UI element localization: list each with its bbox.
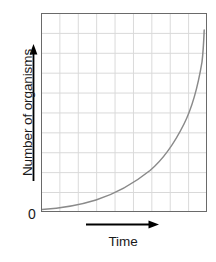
right-arrow-icon — [86, 221, 159, 229]
growth-curve — [42, 30, 205, 210]
y-axis-label: Number of organisms — [20, 33, 35, 193]
origin-label: 0 — [28, 206, 36, 222]
exponential-growth-figure: Number of organisms 0 Time — [0, 0, 216, 262]
x-axis-label: Time — [86, 234, 160, 249]
